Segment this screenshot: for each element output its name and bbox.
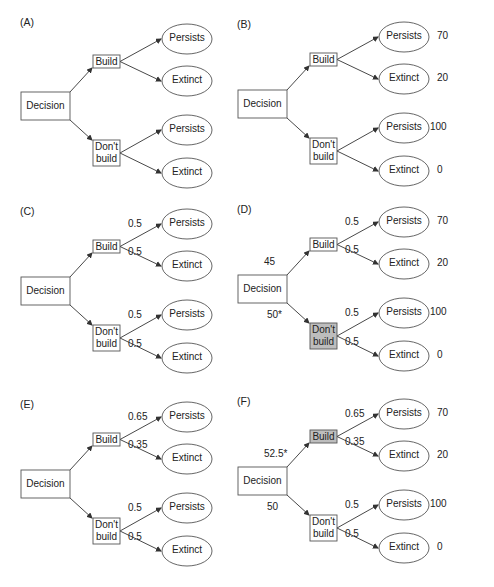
panel-label: (B) [237, 18, 251, 30]
outcome-label: Extinct [379, 541, 429, 553]
payoff-value: 100 [430, 121, 447, 132]
probability-label: 0.5 [345, 244, 359, 255]
payoff-value: 0 [437, 164, 443, 175]
build-label: Build [310, 239, 337, 251]
build-expected-value: 45 [264, 256, 275, 267]
outcome-label: Extinct [162, 544, 212, 556]
build-expected-value: 52.5* [264, 448, 287, 459]
payoff-value: 70 [437, 30, 448, 41]
dont-build-expected-value: 50* [267, 309, 282, 320]
decision-label: Decision [21, 100, 70, 112]
probability-label: 0.5 [128, 502, 142, 513]
outcome-label: Extinct [162, 351, 212, 363]
payoff-value: 0 [437, 349, 443, 360]
outcome-label: Persists [162, 32, 212, 44]
probability-label: 0.35 [345, 436, 364, 447]
build-label: Build [310, 431, 337, 443]
payoff-value: 0 [437, 541, 443, 552]
panel-label: (C) [20, 205, 35, 217]
outcome-label: Extinct [379, 349, 429, 361]
outcome-label: Extinct [379, 164, 429, 176]
outcome-label: Extinct [162, 166, 212, 178]
probability-label: 0.35 [128, 439, 147, 450]
decision-label: Decision [21, 478, 70, 490]
outcome-label: Extinct [379, 257, 429, 269]
outcome-label: Persists [162, 217, 212, 229]
panel-c: (C)DecisionBuildDon't buildPersists0.5Ex… [0, 195, 247, 390]
build-label: Build [93, 241, 120, 253]
outcome-label: Extinct [379, 72, 429, 84]
probability-label: 0.5 [128, 531, 142, 542]
outcome-label: Extinct [162, 259, 212, 271]
payoff-value: 70 [437, 407, 448, 418]
panel-label: (F) [237, 395, 250, 407]
probability-label: 0.5 [128, 246, 142, 257]
payoff-value: 70 [437, 215, 448, 226]
panel-label: (E) [20, 398, 34, 410]
probability-label: 0.5 [345, 499, 359, 510]
build-label: Build [93, 56, 120, 68]
panel-d: (D)DecisionBuildDon't buildPersists0.570… [247, 195, 494, 390]
payoff-value: 20 [437, 72, 448, 83]
outcome-label: Persists [162, 501, 212, 513]
outcome-label: Extinct [379, 449, 429, 461]
panel-label: (D) [237, 203, 252, 215]
dont-build-label: Don't build [93, 141, 120, 165]
payoff-value: 20 [437, 449, 448, 460]
decision-label: Decision [238, 98, 287, 110]
outcome-label: Persists [379, 215, 429, 227]
payoff-value: 100 [430, 498, 447, 509]
outcome-label: Persists [162, 308, 212, 320]
outcome-label: Persists [162, 123, 212, 135]
panel-label: (A) [20, 16, 34, 28]
panel-e: (E)DecisionBuildDon't buildPersists0.65E… [0, 390, 247, 585]
decision-label: Decision [238, 283, 287, 295]
probability-label: 0.65 [128, 411, 147, 422]
payoff-value: 20 [437, 257, 448, 268]
outcome-label: Persists [379, 407, 429, 419]
dont-build-label: Don't build [93, 326, 120, 350]
probability-label: 0.5 [345, 307, 359, 318]
outcome-label: Extinct [162, 452, 212, 464]
build-label: Build [93, 434, 120, 446]
panel-a: (A)DecisionBuildDon't buildPersistsExtin… [0, 0, 247, 195]
outcome-label: Persists [379, 121, 429, 133]
panel-f: (F)DecisionBuildDon't buildPersists0.657… [247, 390, 494, 585]
decision-label: Decision [238, 475, 287, 487]
decision-label: Decision [21, 285, 70, 297]
build-label: Build [310, 54, 337, 66]
dont-build-label: Don't build [310, 324, 337, 348]
outcome-label: Persists [162, 410, 212, 422]
outcome-label: Persists [379, 30, 429, 42]
payoff-value: 100 [430, 306, 447, 317]
outcome-label: Persists [379, 306, 429, 318]
tree-edges [247, 390, 494, 585]
probability-label: 0.5 [128, 309, 142, 320]
dont-build-label: Don't build [310, 139, 337, 163]
dont-build-expected-value: 50 [267, 501, 278, 512]
probability-label: 0.5 [345, 216, 359, 227]
outcome-label: Persists [379, 498, 429, 510]
dont-build-label: Don't build [93, 519, 120, 543]
probability-label: 0.65 [345, 408, 364, 419]
probability-label: 0.5 [345, 336, 359, 347]
probability-label: 0.5 [345, 528, 359, 539]
probability-label: 0.5 [128, 338, 142, 349]
probability-label: 0.5 [128, 218, 142, 229]
outcome-label: Extinct [162, 74, 212, 86]
dont-build-label: Don't build [310, 516, 337, 540]
panel-b: (B)DecisionBuildDon't buildPersists70Ext… [247, 0, 494, 195]
